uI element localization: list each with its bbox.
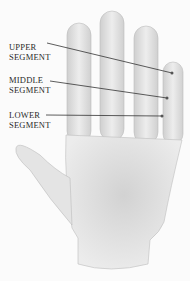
middle-finger — [100, 11, 124, 141]
index-finger — [67, 23, 91, 143]
label-upper-segment: UPPER SEGMENT — [9, 42, 51, 62]
label-middle-segment: MIDDLE SEGMENT — [9, 75, 51, 95]
ring-finger — [134, 26, 158, 144]
palm — [66, 135, 182, 269]
little-finger — [163, 62, 183, 144]
thumb — [16, 145, 72, 225]
label-lower-segment: LOWER SEGMENT — [9, 110, 51, 130]
